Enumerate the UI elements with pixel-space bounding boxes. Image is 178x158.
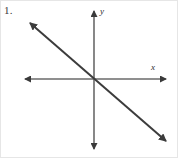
coordinate-axes-diagram: y x: [1, 1, 178, 158]
y-axis-label: y: [99, 6, 104, 16]
coordinate-plane-figure: 1. y x: [0, 0, 178, 158]
x-axis-label: x: [150, 62, 155, 72]
plotted-line-negative-slope: [30, 23, 166, 141]
